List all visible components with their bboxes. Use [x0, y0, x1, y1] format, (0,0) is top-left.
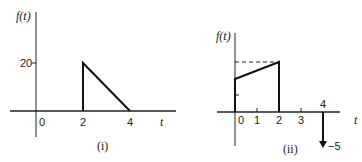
x-tick-label-2: 2 — [80, 116, 86, 128]
panel-i: f(t) 20 0 2 4 t (i) — [10, 9, 176, 153]
x-axis-label: t — [354, 113, 358, 127]
x-tick-label-4: 4 — [127, 116, 133, 128]
x-tick-label-3: 3 — [298, 114, 304, 126]
figure: f(t) 20 0 2 4 t (i) f(t) 0 1 2 3 4 t −5 … — [0, 0, 362, 162]
y-axis-label: f(t) — [16, 9, 31, 23]
x-tick-label-4: 4 — [320, 98, 326, 110]
signal-line — [235, 62, 279, 112]
impulse-label: −5 — [328, 140, 341, 152]
y-tick-label-20: 20 — [20, 57, 32, 69]
y-axis-label: f(t) — [216, 29, 231, 43]
caption: (ii) — [283, 142, 298, 156]
caption: (i) — [97, 139, 108, 153]
impulse-arrow-icon — [319, 141, 327, 148]
signal-line — [83, 63, 130, 111]
x-tick-label-1: 1 — [254, 114, 260, 126]
panel-ii: f(t) 0 1 2 3 4 t −5 (ii) — [216, 29, 358, 156]
x-tick-label-2: 2 — [276, 114, 282, 126]
x-tick-label-0: 0 — [238, 114, 244, 126]
x-tick-label-0: 0 — [39, 116, 45, 128]
x-axis-label: t — [160, 115, 164, 129]
